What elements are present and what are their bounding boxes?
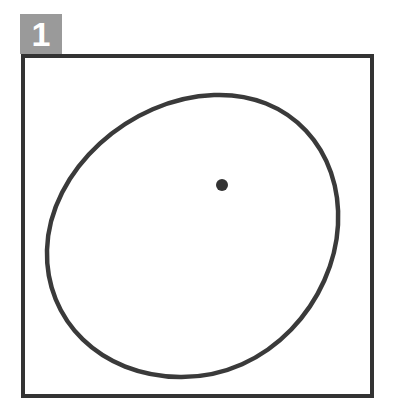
hand-drawn-ellipse	[47, 95, 338, 377]
diagram-canvas	[0, 0, 399, 409]
center-dot	[216, 179, 228, 191]
